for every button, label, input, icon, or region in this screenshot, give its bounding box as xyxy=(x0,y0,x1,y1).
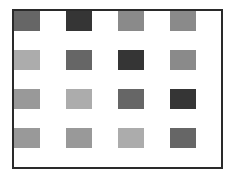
grid-cell-r2-c1 xyxy=(14,50,40,70)
grid-cell-r1-c4 xyxy=(170,11,196,31)
grid-cell-r1-c1 xyxy=(14,11,40,31)
grid-cell-r3-c1 xyxy=(14,89,40,109)
grid-cell-r3-c4 xyxy=(170,89,196,109)
grid-cell-r1-c3 xyxy=(118,11,144,31)
grid-cell-r3-c3 xyxy=(118,89,144,109)
grid-cell-r4-c1 xyxy=(14,128,40,148)
grid-cell-r4-c4 xyxy=(170,128,196,148)
grid-cell-r1-c2 xyxy=(66,11,92,31)
grid-frame xyxy=(12,9,223,169)
grid-cell-r3-c2 xyxy=(66,89,92,109)
grid-cell-r2-c4 xyxy=(170,50,196,70)
grid-cell-r4-c2 xyxy=(66,128,92,148)
grid-cell-r2-c3 xyxy=(118,50,144,70)
grid-cell-r4-c3 xyxy=(118,128,144,148)
grid-cell-r2-c2 xyxy=(66,50,92,70)
